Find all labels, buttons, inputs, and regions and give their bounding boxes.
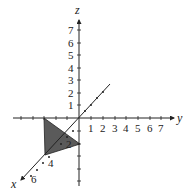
z-tick-2: 2	[68, 87, 74, 99]
z-tick-3: 3	[68, 74, 74, 86]
z-axis-label: z	[74, 3, 80, 17]
y-tick-3: 3	[112, 122, 118, 134]
y-axis-label: y	[176, 111, 183, 125]
y-tick-5: 5	[135, 122, 141, 134]
x-tick-4: 4	[48, 157, 54, 169]
z-axis: 1 2 3 4 5 6 7 z	[68, 3, 81, 186]
x-axis-label: x	[10, 177, 17, 191]
y-tick-2: 2	[100, 122, 106, 134]
z-tick-7: 7	[68, 24, 74, 36]
z-tick-1: 1	[68, 99, 74, 111]
y-tick-7: 7	[158, 122, 164, 134]
x-tick-2: 2	[66, 138, 72, 150]
y-tick-1: 1	[88, 122, 94, 134]
x-axis: 2 4 6 x	[10, 84, 110, 191]
x-tick-6: 6	[31, 173, 37, 185]
y-tick-4: 4	[123, 122, 129, 134]
coordinate-diagram: 1 2 3 4 5 6 7 y	[0, 0, 188, 194]
z-tick-6: 6	[68, 37, 74, 49]
z-tick-5: 5	[68, 49, 74, 61]
y-tick-6: 6	[147, 122, 153, 134]
y-axis: 1 2 3 4 5 6 7 y	[13, 111, 183, 134]
z-tick-4: 4	[68, 62, 74, 74]
